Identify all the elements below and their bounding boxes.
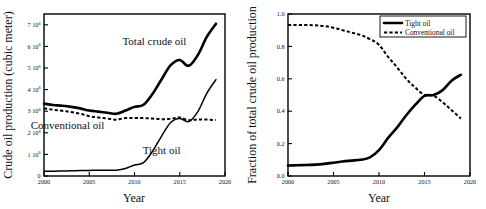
- x-tick-label: 2015: [418, 178, 430, 185]
- x-tick-label: 2000: [38, 178, 50, 185]
- x-tick-label: 2010: [373, 178, 385, 185]
- x-tick-label: 2020: [464, 178, 476, 185]
- x-tick-label: 2000: [282, 178, 294, 185]
- y-tick-label: 1 108: [28, 150, 41, 157]
- chart-svg-right: 0.00.20.40.60.81.0 20002005201020152020 …: [243, 0, 486, 209]
- legend-label-conventional-oil[interactable]: Conventional oil: [405, 28, 454, 37]
- x-axis-ticks-left: 20002005201020152020: [38, 172, 231, 185]
- y-tick-label: 7 108: [28, 21, 41, 28]
- x-tick-label: 2010: [128, 178, 140, 185]
- curve-label: Tight oil: [143, 144, 181, 156]
- legend-label-tight-oil[interactable]: Tight oil: [405, 19, 430, 28]
- series-line-conventional-oil: [288, 25, 461, 118]
- x-tick-label: 2015: [174, 178, 186, 185]
- y-tick-label: 0.8: [277, 43, 285, 50]
- x-tick-label: 2005: [83, 178, 95, 185]
- curve-annotations-left: Total crude oilConventional oilTight oil: [31, 35, 187, 156]
- figure-container: 01 1082 1083 1084 1085 1086 1087 108 200…: [0, 0, 486, 209]
- y-tick-label: 1.0: [277, 10, 285, 17]
- y-axis-title-right: Fraction of total crude oil production: [245, 6, 259, 184]
- chart-panel-left: 01 1082 1083 1084 1085 1086 1087 108 200…: [0, 0, 243, 209]
- curve-label: Conventional oil: [31, 119, 105, 131]
- series-line-tight-oil: [288, 75, 461, 166]
- x-tick-label: 2020: [219, 178, 231, 185]
- y-tick-label: 4 108: [28, 85, 41, 92]
- x-axis-ticks-right: 20002005201020152020: [282, 172, 476, 185]
- y-axis-ticks-left: 01 1082 1083 1084 1085 1086 1087 108: [28, 21, 48, 180]
- y-tick-label: 6 108: [28, 42, 41, 49]
- y-tick-label: 0.4: [277, 107, 285, 114]
- y-axis-title-left: Crude oil production (cubic meter): [1, 11, 15, 178]
- data-series-group-right: [288, 25, 461, 165]
- chart-svg-left: 01 1082 1083 1084 1085 1086 1087 108 200…: [0, 0, 243, 209]
- y-axis-ticks-right: 0.00.20.40.60.81.0: [277, 10, 292, 179]
- curve-label: Total crude oil: [122, 35, 186, 47]
- legend-right[interactable]: Tight oilConventional oil: [380, 16, 466, 37]
- y-tick-label: 3 108: [28, 107, 41, 114]
- x-axis-title-left: Year: [123, 191, 145, 205]
- y-tick-label: 0.2: [277, 140, 285, 147]
- chart-panel-right: 0.00.20.40.60.81.0 20002005201020152020 …: [243, 0, 486, 209]
- x-axis-title-right: Year: [368, 191, 390, 205]
- x-tick-label: 2005: [327, 178, 339, 185]
- y-tick-label: 0.6: [277, 75, 285, 82]
- y-tick-label: 5 108: [28, 64, 41, 71]
